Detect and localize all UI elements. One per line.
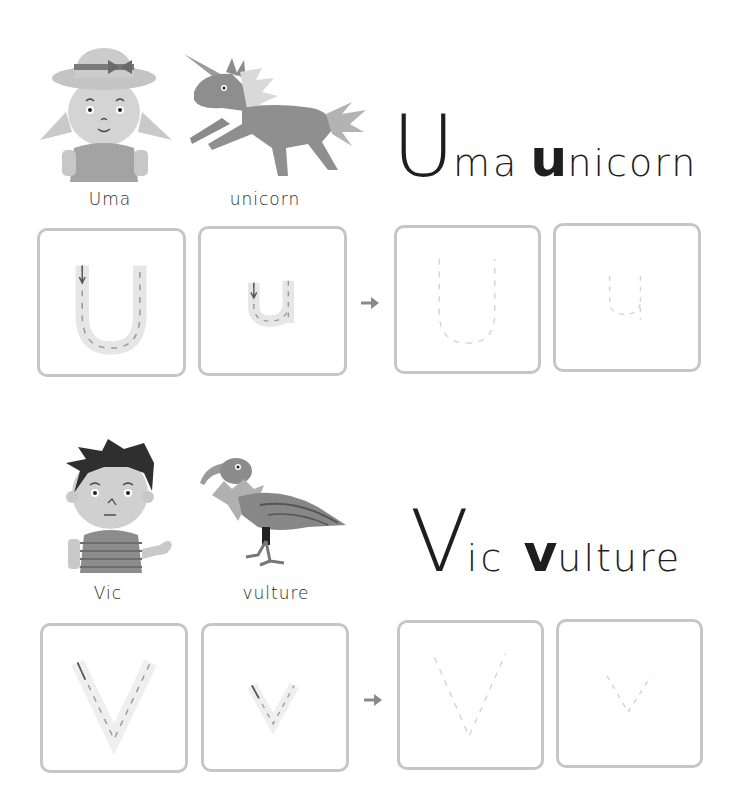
heading-name-rest: ic: [467, 536, 504, 580]
guided-lowercase-u-box[interactable]: [198, 226, 347, 376]
boy-icon: [58, 433, 173, 573]
guided-lowercase-v-box[interactable]: [201, 623, 349, 772]
arrow-right-icon: [361, 294, 381, 306]
page-heading-v: Vic vulture: [410, 498, 681, 584]
heading-small-letter: v: [523, 523, 557, 583]
heading-big-letter: U: [392, 96, 453, 196]
practice-uppercase-v-box[interactable]: [397, 620, 544, 770]
guided-uppercase-v-box[interactable]: [40, 623, 188, 773]
heading-name-rest: ma: [453, 141, 519, 185]
guided-uppercase-u-box[interactable]: [37, 228, 186, 377]
caption-person: Vic: [78, 583, 138, 603]
girl-with-hat-icon: [38, 42, 173, 182]
heading-animal-rest: ulture: [557, 536, 681, 580]
practice-lowercase-u-box[interactable]: [553, 223, 701, 372]
vulture-icon: [198, 455, 348, 570]
unicorn-icon: [182, 52, 367, 187]
heading-animal-rest: nicorn: [567, 141, 697, 185]
caption-person: Uma: [70, 189, 150, 209]
page-heading-u: Uma unicorn: [392, 103, 697, 189]
arrow-right-icon: [364, 691, 384, 703]
caption-animal: vulture: [226, 583, 326, 603]
caption-animal: unicorn: [215, 189, 315, 209]
practice-lowercase-v-box[interactable]: [556, 619, 703, 768]
practice-uppercase-u-box[interactable]: [394, 225, 541, 374]
heading-big-letter: V: [410, 491, 467, 591]
heading-small-letter: u: [530, 128, 567, 188]
